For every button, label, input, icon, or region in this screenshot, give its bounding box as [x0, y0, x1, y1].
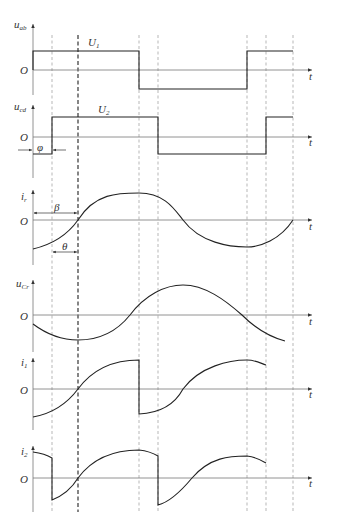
phi-label: φ [37, 141, 43, 153]
time-axis-label: t [309, 315, 313, 327]
u-cd-label: ucd [14, 100, 27, 114]
theta-label: θ [62, 240, 68, 252]
i-1-label: i1 [21, 356, 28, 370]
origin-label: O [20, 215, 28, 227]
origin-label: O [20, 310, 28, 322]
origin-label: O [20, 384, 28, 396]
time-axis-label: t [309, 70, 313, 82]
panel-i-2: i2 O t [20, 445, 313, 512]
u-ab-label: uab [14, 18, 27, 32]
u2-level-label: U2 [98, 103, 110, 117]
i-2-label: i2 [21, 445, 28, 459]
time-axis-label: t [309, 477, 313, 489]
panel-i-1: i1 O t [20, 356, 313, 430]
time-axis-label: t [309, 136, 313, 148]
u-cr-label: uCr [16, 277, 29, 291]
beta-label: β [53, 201, 60, 213]
waveform-diagram: uab O t U1 ucd O t U2 φ ir O t β θ uCr O [0, 0, 337, 529]
i-r-label: ir [21, 190, 27, 204]
panel-i-r: ir O t β θ [20, 190, 313, 265]
guide-lines [52, 35, 293, 512]
time-axis-label: t [309, 388, 313, 400]
panel-u-cd: ucd O t U2 φ [14, 100, 313, 178]
u1-level-label: U1 [88, 36, 99, 50]
panel-u-ab: uab O t U1 [14, 18, 313, 95]
origin-label: O [20, 131, 28, 143]
panel-u-cr: uCr O t [16, 277, 313, 352]
origin-label: O [20, 473, 28, 485]
origin-label: O [20, 64, 28, 76]
time-axis-label: t [309, 220, 313, 232]
